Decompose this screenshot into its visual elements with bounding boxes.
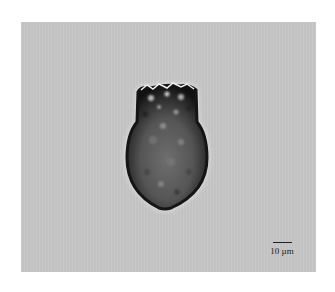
scale-bar-label: 10 µm: [267, 246, 297, 256]
organism-cell: [21, 22, 316, 272]
scale-bar-line: [273, 242, 292, 243]
micrograph-panel: 10 µm: [21, 22, 316, 272]
scale-bar: 10 µm: [267, 242, 297, 256]
